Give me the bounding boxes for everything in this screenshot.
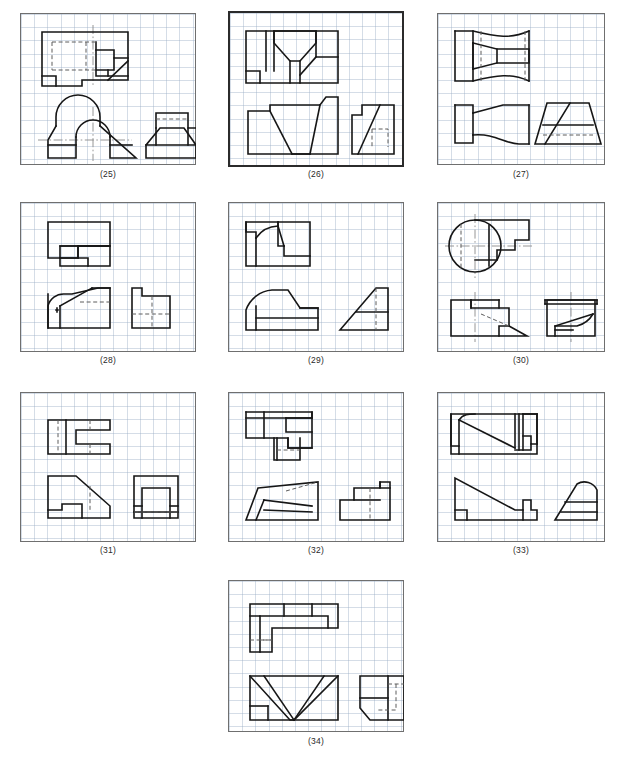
panel-25-drawing <box>20 13 196 165</box>
panel-33-drawing <box>437 392 605 542</box>
exercise-panel-26: (26) <box>228 11 404 167</box>
panel-32-drawing <box>228 392 404 542</box>
panel-27-label: (27) <box>437 169 605 179</box>
panel-34-label: (34) <box>228 736 404 746</box>
panel-27-drawing <box>437 13 605 165</box>
exercise-sheet: (25) (26) <box>0 0 627 770</box>
exercise-panel-30: (30) <box>437 202 605 352</box>
panel-31-label: (31) <box>20 545 196 555</box>
exercise-panel-31: (31) <box>20 392 196 542</box>
panel-34-drawing <box>228 580 404 732</box>
exercise-panel-29: (29) <box>228 202 404 352</box>
exercise-panel-32: (32) <box>228 392 404 542</box>
exercise-panel-27: (27) <box>437 13 605 165</box>
panel-29-drawing <box>228 202 404 352</box>
exercise-panel-33: (33) <box>437 392 605 542</box>
panel-25-label: (25) <box>20 169 196 179</box>
panel-30-label: (30) <box>437 355 605 365</box>
exercise-panel-28: (28) <box>20 202 196 352</box>
panel-28-label: (28) <box>20 355 196 365</box>
panel-28-drawing <box>20 202 196 352</box>
panel-31-drawing <box>20 392 196 542</box>
panel-33-label: (33) <box>437 545 605 555</box>
panel-26-drawing <box>228 11 404 167</box>
exercise-panel-25: (25) <box>20 13 196 165</box>
panel-32-label: (32) <box>228 545 404 555</box>
panel-30-drawing <box>437 202 605 352</box>
exercise-panel-34: (34) <box>228 580 404 732</box>
panel-29-label: (29) <box>228 355 404 365</box>
panel-26-label: (26) <box>228 169 404 179</box>
